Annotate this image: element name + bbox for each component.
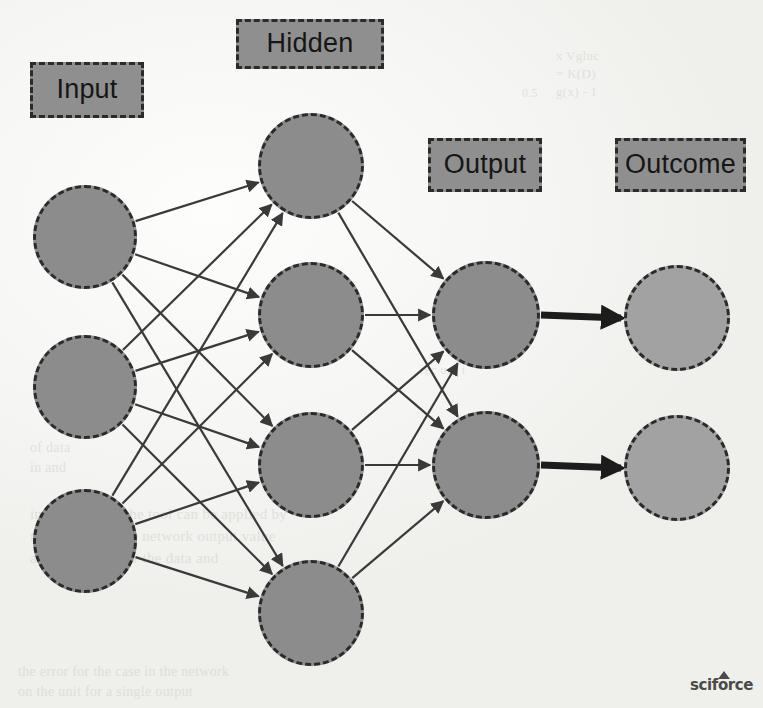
edges-output-to-outcome <box>541 315 621 468</box>
layer-label-text: Hidden <box>267 30 354 57</box>
node-hidden-4 <box>258 560 364 666</box>
node-hidden-3 <box>258 412 364 518</box>
edge-i2-h1 <box>123 204 272 349</box>
edge-i1-h2 <box>135 254 259 297</box>
mountain-icon <box>718 671 730 679</box>
edge-h1-o1 <box>352 201 443 279</box>
edges-hidden-to-output <box>338 201 457 578</box>
node-outcome-2 <box>624 415 730 521</box>
edge-i3-h3 <box>135 483 259 525</box>
edge-o1-c1 <box>541 315 621 318</box>
edge-h4-o2 <box>352 501 443 578</box>
layer-label-text: Input <box>56 76 117 103</box>
edge-i1-h1 <box>136 182 259 221</box>
node-input-3 <box>33 489 137 593</box>
edge-i3-h2 <box>122 354 272 504</box>
node-output-1 <box>432 261 540 369</box>
edge-i2-h4 <box>122 424 272 574</box>
node-output-2 <box>432 411 540 519</box>
node-hidden-1 <box>258 113 364 219</box>
neural-network-diagram: x Vgluc= K(D)g(x) - 1and0.5rec unt iin t… <box>0 0 763 708</box>
layer-label-text: Output <box>444 151 526 178</box>
layer-label-outcome: Outcome <box>615 138 746 192</box>
layer-label-text: Outcome <box>625 151 736 178</box>
edge-o2-c2 <box>541 465 621 468</box>
edges-input-to-hidden <box>112 182 282 596</box>
layer-label-hidden: Hidden <box>236 19 384 69</box>
layer-label-output: Output <box>428 138 542 192</box>
sciforce-watermark: sciforce <box>690 676 753 694</box>
node-input-1 <box>33 185 137 289</box>
node-input-2 <box>33 335 137 439</box>
node-outcome-1 <box>624 265 730 371</box>
edge-i3-h4 <box>135 557 258 596</box>
node-hidden-2 <box>258 262 364 368</box>
layer-label-input: Input <box>30 62 144 118</box>
